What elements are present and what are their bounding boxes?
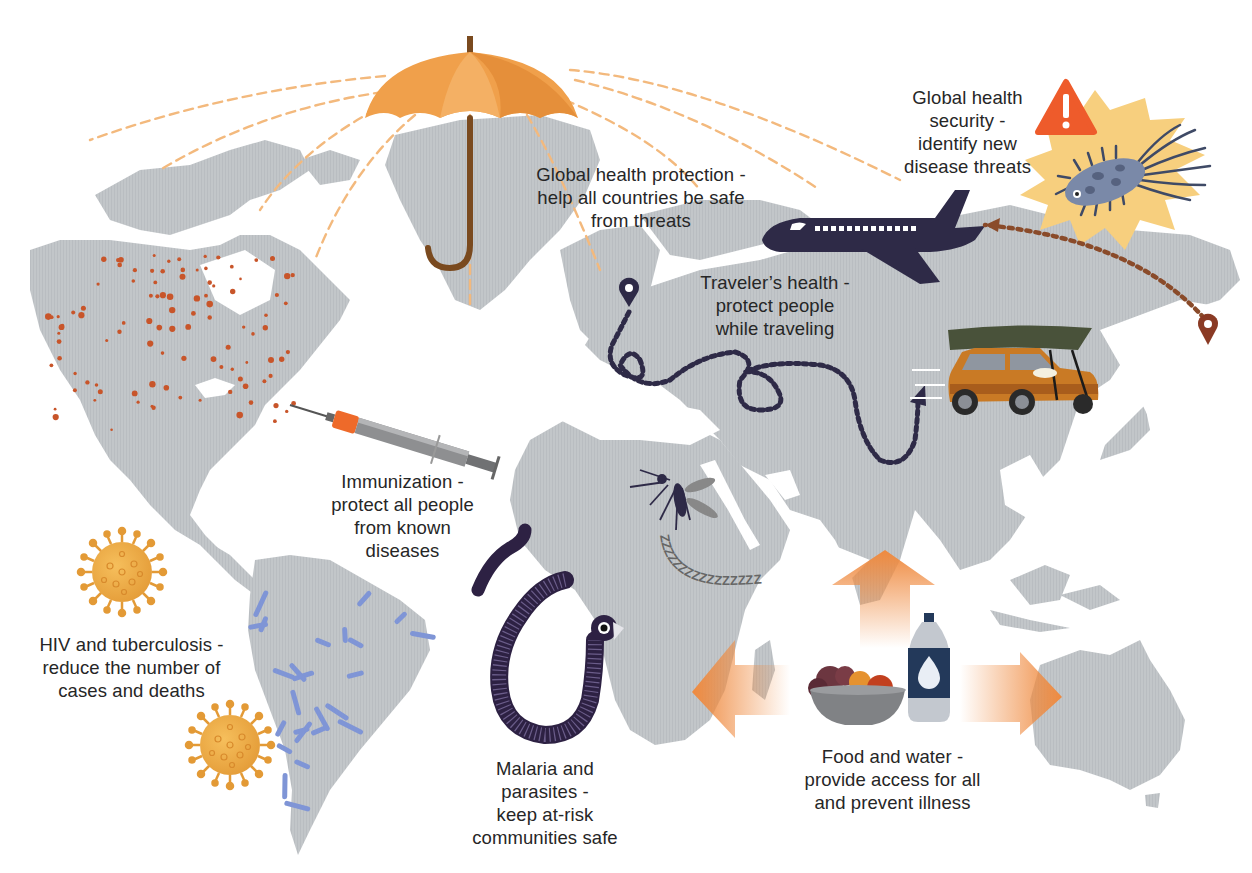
label-travelers-health: Traveler’s health - protect people while… <box>675 271 875 340</box>
world-map-illustration: ZZZZZZZZZZZZZZZZ <box>0 0 1252 873</box>
label-food-water: Food and water - provide access for all … <box>785 745 1000 814</box>
water-bottle-icon <box>908 613 950 722</box>
infographic-canvas: ZZZZZZZZZZZZZZZZ <box>0 0 1252 873</box>
label-malaria-parasites: Malaria and parasites - keep at-risk com… <box>460 757 630 849</box>
virus-icon <box>78 528 166 616</box>
virus-icon <box>186 701 274 789</box>
label-global-health-protection: Global health protection - help all coun… <box>496 163 786 232</box>
syringe-icon <box>286 391 500 483</box>
label-global-health-security: Global health security - identify new di… <box>885 86 1050 178</box>
label-hiv-tuberculosis: HIV and tuberculosis - reduce the number… <box>24 633 239 702</box>
label-immunization: Immunization - protect all people from k… <box>315 470 490 562</box>
fruit-bowl-icon <box>808 666 906 725</box>
